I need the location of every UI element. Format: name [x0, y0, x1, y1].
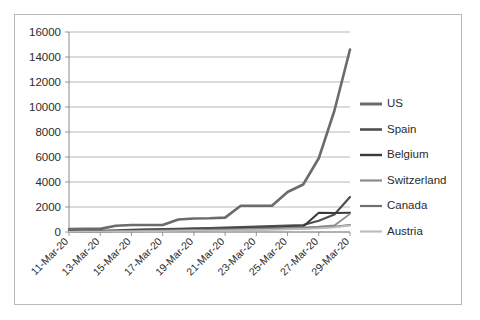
- y-tick-labels-group: 0200040006000800010000120001400016000: [29, 26, 61, 238]
- legend-label-switzerland: Switzerland: [387, 174, 446, 186]
- y-tick-label: 4000: [35, 176, 61, 188]
- y-tick-label: 2000: [35, 201, 61, 213]
- y-tick-label: 10000: [29, 101, 61, 113]
- y-tick-label: 16000: [29, 26, 61, 38]
- y-tick-label: 14000: [29, 51, 61, 63]
- data-series-group: [69, 50, 350, 232]
- legend-label-spain: Spain: [387, 123, 416, 135]
- legend-label-austria: Austria: [387, 225, 423, 237]
- line-chart: 0200040006000800010000120001400016000 11…: [0, 0, 480, 320]
- y-tick-label: 6000: [35, 151, 61, 163]
- y-tick-label: 8000: [35, 126, 61, 138]
- y-axis-line: [65, 32, 69, 232]
- x-tick-labels-group: 11-Mar-2013-Mar-2015-Mar-2017-Mar-2019-M…: [28, 235, 351, 278]
- legend-label-belgium: Belgium: [387, 148, 429, 160]
- gridlines-group: [69, 32, 350, 232]
- legend-label-us: US: [387, 97, 403, 109]
- legend-label-canada: Canada: [387, 199, 428, 211]
- legend: USSpainBelgiumSwitzerlandCanadaAustria: [360, 97, 446, 237]
- series-line-us: [69, 50, 350, 230]
- x-axis-line: [69, 232, 350, 236]
- y-tick-label: 12000: [29, 76, 61, 88]
